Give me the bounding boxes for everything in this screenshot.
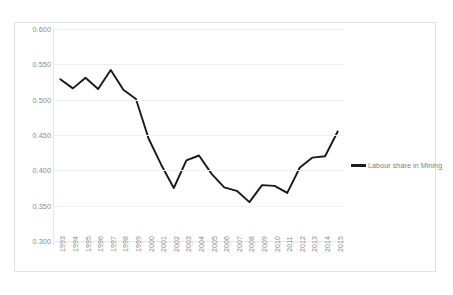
gridline: [54, 29, 344, 30]
x-axis-tick-mark: [330, 242, 331, 245]
x-axis-tick-mark: [166, 242, 167, 245]
chart-container: 0.6000.5500.5000.4500.4000.3500.300 1993…: [14, 22, 436, 272]
y-axis-tick-label: 0.450: [33, 131, 52, 140]
x-axis-tick-mark: [318, 242, 319, 245]
series-line: [60, 70, 337, 202]
x-axis-tick-mark: [217, 242, 218, 245]
x-axis-tick-mark: [179, 242, 180, 245]
x-axis-tick-mark: [129, 242, 130, 245]
plot-area: [53, 29, 344, 241]
x-axis-tick-mark: [91, 242, 92, 245]
x-axis: 1993199419951996199719981999200020012002…: [53, 242, 343, 272]
y-axis-tick-label: 0.400: [33, 166, 52, 175]
gridline: [54, 170, 344, 171]
x-axis-tick-mark: [192, 242, 193, 245]
chart-legend: Labour share in Mining: [351, 161, 442, 170]
y-axis-tick-label: 0.550: [33, 60, 52, 69]
x-axis-tick-mark: [116, 242, 117, 245]
legend-line-swatch: [351, 164, 366, 167]
x-axis-tick-mark: [267, 242, 268, 245]
gridline: [54, 206, 344, 207]
x-axis-tick-mark: [293, 242, 294, 245]
x-axis-tick-mark: [141, 242, 142, 245]
gridline: [54, 64, 344, 65]
x-axis-tick-mark: [305, 242, 306, 245]
chart-plot-wrapper: 0.6000.5500.5000.4500.4000.3500.300 1993…: [15, 23, 437, 273]
y-axis-tick-label: 0.350: [33, 201, 52, 210]
x-axis-tick-label: 2015: [337, 236, 344, 252]
x-axis-tick-mark: [78, 242, 79, 245]
gridline: [54, 135, 344, 136]
x-axis-tick-mark: [204, 242, 205, 245]
y-axis-tick-label: 0.500: [33, 95, 52, 104]
x-axis-tick-mark: [66, 242, 67, 245]
x-axis-tick-mark: [53, 242, 54, 245]
x-axis-tick-mark: [242, 242, 243, 245]
legend-item-label: Labour share in Mining: [368, 161, 442, 170]
y-axis: 0.6000.5500.5000.4500.4000.3500.300: [17, 23, 51, 247]
x-axis-tick-mark: [103, 242, 104, 245]
x-axis-tick-mark: [154, 242, 155, 245]
y-axis-tick-label: 0.300: [33, 237, 52, 246]
x-axis-tick-mark: [280, 242, 281, 245]
y-axis-tick-label: 0.600: [33, 25, 52, 34]
gridline: [54, 100, 344, 101]
x-axis-tick-mark: [230, 242, 231, 245]
x-axis-tick-mark: [255, 242, 256, 245]
